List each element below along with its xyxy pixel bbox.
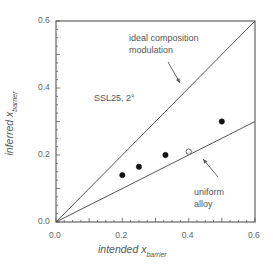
data-point-filled (219, 119, 224, 124)
x-axis-title: intended xbarrier (98, 243, 167, 258)
annotation-ideal-line1: ideal composition (129, 33, 199, 43)
data-points (120, 119, 225, 178)
annotation-uniform-line2: alloy (194, 199, 213, 209)
annotation-arrows (168, 62, 218, 177)
data-point-filled (120, 172, 125, 177)
x-tick-label: 0.4 (182, 230, 194, 240)
data-point-filled (136, 164, 141, 169)
y-tick-label: 0.4 (38, 82, 50, 92)
data-point-filled (163, 152, 168, 157)
y-axis-title: inferred xbarrier (3, 91, 18, 155)
uniform-alloy-line (56, 122, 255, 223)
x-tick-label: 0.6 (248, 230, 260, 240)
annotation-uniform-line1: uniform (194, 187, 224, 197)
y-tick-label: 0.0 (38, 216, 50, 226)
annotation-sample: SSL25, 2° (94, 93, 135, 103)
x-tick-label: 0.2 (115, 230, 127, 240)
y-tick-label: 0.2 (38, 149, 50, 159)
annotation-ideal-line2: modulation (129, 45, 173, 55)
x-tick-label: 0.0 (49, 230, 61, 240)
y-tick-label: 0.6 (38, 15, 50, 25)
data-point-open (186, 149, 191, 154)
